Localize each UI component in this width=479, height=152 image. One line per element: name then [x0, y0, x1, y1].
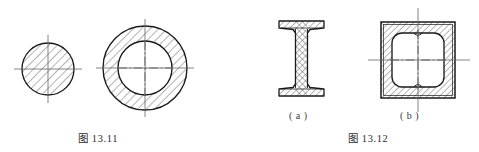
figure-caption-13-12: 图 13.12 — [348, 130, 388, 145]
technical-drawing-canvas — [0, 0, 479, 152]
figure-caption-13-11: 图 13.11 — [78, 130, 118, 145]
engineering-cross-sections-svg — [0, 0, 479, 152]
sublabel-b: ( b ) — [400, 110, 419, 121]
box-section — [368, 8, 470, 112]
figure-page: 图 13.11 图 13.12 ( a ) ( b ) — [0, 0, 479, 152]
sublabel-a: ( a ) — [289, 110, 308, 121]
